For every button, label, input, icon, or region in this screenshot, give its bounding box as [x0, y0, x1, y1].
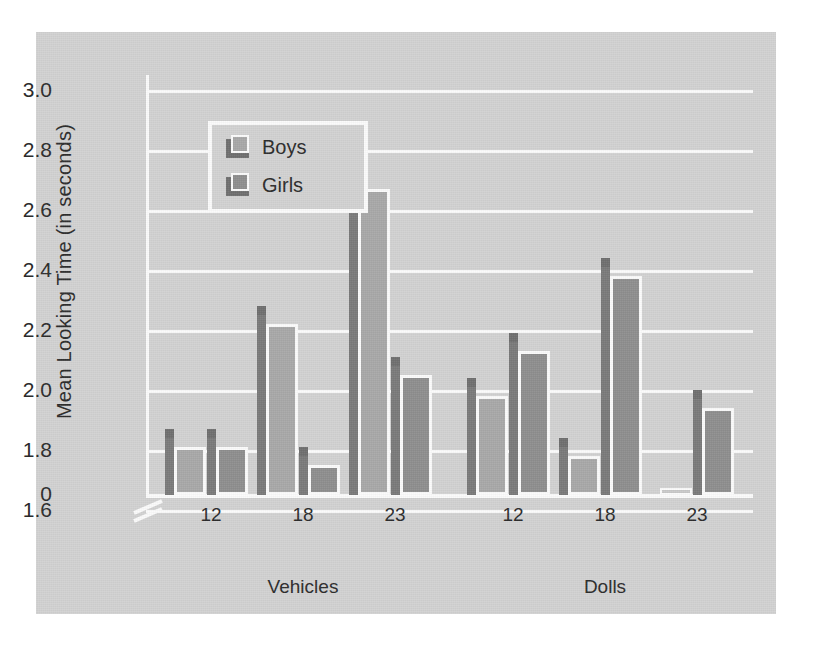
bar-vehicles-12-boys: [174, 447, 206, 495]
bar-face: [702, 408, 734, 495]
bar-side-3d: [165, 438, 174, 486]
bar-vehicles-18-girls: [308, 465, 340, 495]
bar-side-3d: [349, 180, 358, 486]
bar-face: [476, 396, 508, 495]
y-axis-tick-2-4: 2.4: [0, 259, 52, 280]
bar-dolls-12-girls: [518, 351, 550, 495]
bar-face: [660, 488, 692, 495]
bar-vehicles-23-boys: [358, 189, 390, 495]
bar-side-3d: [299, 456, 308, 486]
plot-area: Boys Girls: [146, 75, 753, 495]
y-axis-tick-2-8: 2.8: [0, 139, 52, 160]
bar-side-3d: [509, 342, 518, 486]
bar-vehicles-12-girls: [216, 447, 248, 495]
gridline: [146, 90, 753, 93]
y-axis-tick-0: 0: [0, 483, 52, 504]
y-axis-title: Mean Looking Time (in seconds): [53, 32, 76, 512]
legend-swatch-girls-icon: [226, 173, 249, 196]
bar-side-3d: [257, 315, 266, 486]
bar-dolls-23-girls: [702, 408, 734, 495]
bar-face: [266, 324, 298, 495]
legend-label-girls: Girls: [262, 174, 303, 197]
y-axis-line: [146, 75, 149, 495]
bar-side-3d: [601, 267, 610, 486]
legend: Boys Girls: [208, 121, 368, 213]
y-axis-tick-2-0: 2.0: [0, 379, 52, 400]
bar-vehicles-18-boys: [266, 324, 298, 495]
bar-vehicles-23-girls: [400, 375, 432, 495]
bar-dolls-23-boys: [660, 488, 692, 495]
bar-dolls-12-boys: [476, 396, 508, 495]
bar-side-3d: [467, 387, 476, 486]
legend-label-boys: Boys: [262, 136, 306, 159]
bar-face: [568, 456, 600, 495]
panel-label-vehicles: Vehicles: [183, 576, 423, 598]
gridline: [146, 390, 753, 393]
x-axis-tick-vehicles-12: 12: [176, 504, 246, 526]
panel-label-dolls: Dolls: [485, 576, 725, 598]
bar-dolls-18-boys: [568, 456, 600, 495]
chart-panel: Mean Looking Time (in seconds) 3.02.82.6…: [36, 32, 776, 614]
bar-face: [216, 447, 248, 495]
y-axis-tick-1-8: 1.8: [0, 439, 52, 460]
bar-side-3d: [693, 399, 702, 486]
bar-side-3d: [391, 366, 400, 486]
y-axis-tick-3-0: 3.0: [0, 79, 52, 100]
legend-swatch-boys-icon: [226, 135, 249, 158]
y-axis-tick-2-6: 2.6: [0, 199, 52, 220]
x-axis-tick-dolls-18: 18: [570, 504, 640, 526]
gridline: [146, 330, 753, 333]
bar-dolls-18-girls: [610, 276, 642, 495]
x-axis-tick-vehicles-23: 23: [360, 504, 430, 526]
gridline: [146, 270, 753, 273]
bar-face: [400, 375, 432, 495]
bar-face: [610, 276, 642, 495]
bar-side-3d: [207, 438, 216, 486]
bar-face: [358, 189, 390, 495]
bar-face: [518, 351, 550, 495]
x-axis-tick-vehicles-18: 18: [268, 504, 338, 526]
x-axis-tick-dolls-23: 23: [662, 504, 732, 526]
x-axis-tick-dolls-12: 12: [478, 504, 548, 526]
bar-face: [308, 465, 340, 495]
bar-face: [174, 447, 206, 495]
chart-screenshot: Mean Looking Time (in seconds) 3.02.82.6…: [0, 0, 820, 649]
y-axis-tick-2-2: 2.2: [0, 319, 52, 340]
bar-side-3d: [559, 447, 568, 486]
